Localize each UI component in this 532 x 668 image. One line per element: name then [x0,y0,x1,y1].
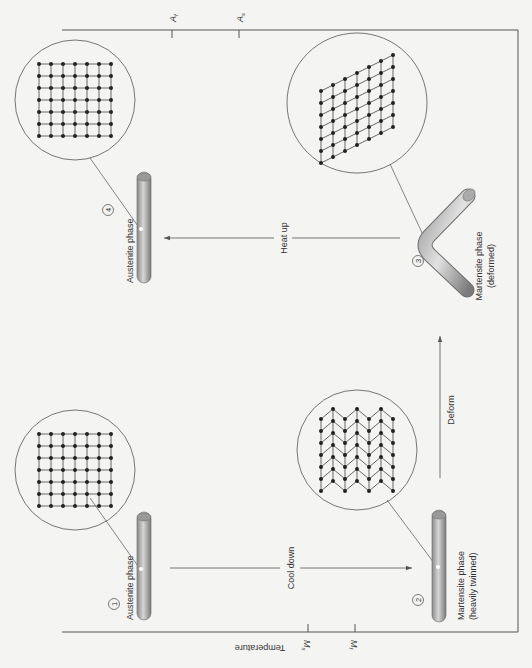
magnified-point [139,227,143,231]
stage-1-austenite: Austenite phase 1 [15,410,151,620]
magnified-point [436,565,440,569]
stage-4-austenite: Austenite phase 4 [15,40,151,283]
rod-end-icon [432,511,446,519]
square-lattice [37,432,113,508]
rod-end-icon [137,173,151,181]
tick-label-af: Af [168,13,179,23]
rod-icon [137,172,151,283]
stage-label: Martensite phase [474,231,484,300]
bent-rod-icon [425,196,468,290]
stage-3-martensite-deformed: Martensite phase (deformed) 3 [287,33,496,301]
stage-sublabel: (heavily twinned) [468,552,478,620]
stage-label: Martensite phase [456,551,466,620]
transition-label: Heat up [279,222,289,254]
stage-label: Austenite phase [125,555,135,620]
transition-heat-up: Heat up [164,222,400,254]
rod-icon [137,512,151,620]
transition-cool-down: Cool down [170,547,412,590]
rod-end-icon [137,513,151,521]
magnifier-leader-line [387,500,437,567]
magnifier-leader-line [390,164,424,237]
stage-number: 3 [414,259,423,263]
transition-label: Cool down [286,547,296,590]
transition-deform: Deform [440,336,456,478]
twinned-lattice [319,407,395,493]
stage-number: 4 [104,208,113,212]
tick-label-as: As [235,13,246,23]
top-ticks: Af As [168,13,246,38]
transition-label: Deform [446,395,456,425]
stage-number: 1 [110,602,119,606]
tick-label-ms: Ms [301,640,312,651]
frame [62,30,518,632]
sheared-lattice [319,53,395,165]
axis-label-temperature: Temperature [235,643,286,653]
stage-number: 2 [414,598,423,602]
tick-label-mf: Mf [348,640,359,651]
square-lattice [37,62,113,138]
bottom-ticks: Ms Mf Temperature [235,624,359,653]
magnifier-leader-line [90,158,140,229]
stage-label: Austenite phase [125,218,135,283]
stage-sublabel: (deformed) [486,244,496,288]
magnified-point [139,567,143,571]
shape-memory-diagram: Af As Ms Mf Temperature Austenite phase … [0,0,532,668]
